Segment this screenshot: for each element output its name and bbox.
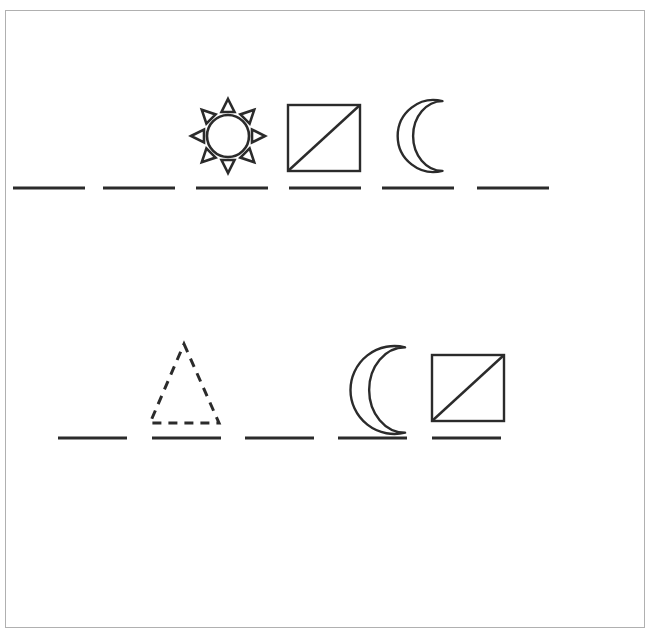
sun-rays xyxy=(191,99,265,173)
sun-ray xyxy=(191,130,204,143)
crescent-moon-icon xyxy=(398,100,443,172)
square-diagonal-icon xyxy=(288,105,360,171)
sun-ray xyxy=(252,130,265,143)
figure-canvas xyxy=(0,0,653,634)
crescent-moon-icon xyxy=(350,346,405,434)
square-diagonal-icon xyxy=(432,355,504,421)
bottom-row-group xyxy=(58,344,504,438)
sun-ray xyxy=(222,160,235,173)
square-diagonal-line xyxy=(432,355,504,421)
sun-disc xyxy=(207,115,249,157)
crescent-moon-path xyxy=(398,100,443,172)
scene-drawing xyxy=(0,0,653,634)
sun-icon xyxy=(191,99,265,173)
top-row-group xyxy=(13,99,549,188)
crescent-moon-path xyxy=(350,346,405,434)
triangle-outline xyxy=(150,344,219,423)
sun-ray xyxy=(222,99,235,112)
square-diagonal-line xyxy=(288,105,360,171)
triangle-icon xyxy=(150,344,219,423)
